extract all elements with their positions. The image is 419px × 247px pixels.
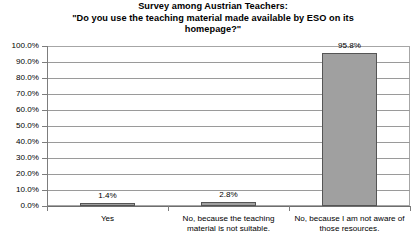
chart-title-line-1: Survey among Austrian Teachers:	[48, 1, 378, 13]
chart-title-line-2: "Do you use the teaching material made a…	[48, 13, 378, 36]
x-axis-category-label: No, because I am not aware ofthose resou…	[284, 214, 415, 234]
y-axis-label: 40.0%	[0, 137, 39, 146]
y-axis-label: 60.0%	[0, 105, 39, 114]
y-axis-line	[47, 46, 48, 207]
bar-value-label: 2.8%	[189, 190, 269, 199]
y-axis-tick	[42, 174, 47, 175]
x-axis-category-label-line: No, because the teaching	[163, 214, 294, 224]
x-axis-category-label: No, because the teachingmaterial is not …	[163, 214, 294, 234]
y-axis-tick	[42, 94, 47, 95]
y-axis-label: 90.0%	[0, 57, 39, 66]
plot-area	[47, 46, 410, 206]
y-axis-label: 20.0%	[0, 169, 39, 178]
y-axis-tick	[42, 190, 47, 191]
y-axis-label: 80.0%	[0, 73, 39, 82]
chart-title: Survey among Austrian Teachers: "Do you …	[48, 1, 378, 36]
y-axis-tick	[42, 158, 47, 159]
x-axis-tick	[289, 206, 290, 211]
y-axis-label: 10.0%	[0, 185, 39, 194]
y-axis-tick	[42, 46, 47, 47]
y-axis-label: 50.0%	[0, 121, 39, 130]
y-axis-label: 0.0%	[0, 201, 39, 210]
x-axis-tick	[168, 206, 169, 211]
bar-value-label: 1.4%	[68, 191, 148, 200]
bar	[322, 53, 377, 206]
y-axis-label: 30.0%	[0, 153, 39, 162]
x-axis-tick	[47, 206, 48, 211]
bar-value-label: 95.8%	[310, 41, 390, 50]
y-axis-label: 70.0%	[0, 89, 39, 98]
x-axis-tick	[410, 206, 411, 211]
y-axis-tick	[42, 126, 47, 127]
x-axis-category-label: Yes	[42, 214, 173, 224]
x-axis-category-label-line: material is not suitable.	[163, 224, 294, 234]
y-axis-label: 100.0%	[0, 41, 39, 50]
x-axis-category-label-line: those resources.	[284, 224, 415, 234]
y-axis-tick	[42, 110, 47, 111]
y-axis-tick	[42, 78, 47, 79]
bar-chart: Survey among Austrian Teachers: "Do you …	[0, 0, 419, 247]
x-axis-category-label-line: Yes	[42, 214, 173, 224]
x-axis-line	[47, 206, 411, 207]
y-axis-tick	[42, 142, 47, 143]
x-axis-category-label-line: No, because I am not aware of	[284, 214, 415, 224]
y-axis-tick	[42, 62, 47, 63]
